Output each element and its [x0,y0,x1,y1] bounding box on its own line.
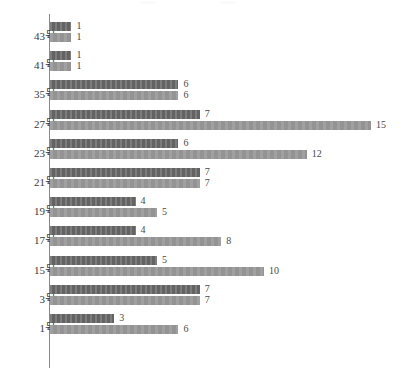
category-label: 17号 [0,234,56,246]
bar-row: 4 [50,197,406,206]
category-label: 1号 [0,322,56,334]
bar-value-label: 8 [226,235,231,247]
bar-row: 1 [50,33,406,42]
bar-group: 27号715 [0,110,406,130]
bar-value-label: 10 [269,265,279,277]
category-label: 23号 [0,147,56,159]
category-label: 15号 [0,264,56,276]
bar-series-0[interactable] [50,197,136,206]
bar-value-label: 5 [162,206,167,218]
bar-group: 19号45 [0,197,406,217]
bar-series-1[interactable] [50,325,178,334]
bar-row: 7 [50,110,406,119]
bar-group: 35号66 [0,80,406,100]
bar-chart: 43号1141号1135号6627号71523号61221号7719号4517号… [0,0,406,381]
bar-row: 4 [50,226,406,235]
bar-series-1[interactable] [50,150,307,159]
bar-group: 23号612 [0,139,406,159]
bar-group: 21号77 [0,168,406,188]
bar-series-0[interactable] [50,139,178,148]
bar-group: 43号11 [0,22,406,42]
bar-series-1[interactable] [50,62,71,71]
category-label: 3号 [0,293,56,305]
bar-series-0[interactable] [50,168,200,177]
bar-series-0[interactable] [50,80,178,89]
bar-row: 7 [50,296,406,305]
bar-group: 1号36 [0,314,406,334]
category-label: 43号 [0,30,56,42]
bar-group: 17号48 [0,226,406,246]
bar-row: 12 [50,150,406,159]
bar-row: 6 [50,80,406,89]
bar-series-1[interactable] [50,33,71,42]
bar-series-0[interactable] [50,285,200,294]
plot-area: 43号1141号1135号6627号71523号61221号7719号4517号… [0,0,406,381]
category-label: 21号 [0,176,56,188]
bar-row: 6 [50,91,406,100]
bar-series-1[interactable] [50,179,200,188]
bar-value-label: 7 [205,294,210,306]
bar-value-label: 1 [76,31,81,43]
bar-group: 3号77 [0,285,406,305]
bar-series-1[interactable] [50,208,157,217]
bar-value-label: 5 [162,254,167,266]
bar-row: 7 [50,179,406,188]
bar-value-label: 3 [119,312,124,324]
bar-value-label: 4 [141,195,146,207]
bar-series-1[interactable] [50,91,178,100]
bar-value-label: 7 [205,177,210,189]
bar-row: 1 [50,62,406,71]
bar-value-label: 15 [376,119,386,131]
bar-row: 1 [50,51,406,60]
bar-row: 15 [50,121,406,130]
bar-series-1[interactable] [50,121,371,130]
bar-value-label: 4 [141,224,146,236]
bar-series-0[interactable] [50,314,114,323]
bar-row: 1 [50,22,406,31]
bar-row: 6 [50,325,406,334]
bar-row: 7 [50,168,406,177]
bar-series-0[interactable] [50,22,71,31]
bar-value-label: 6 [183,137,188,149]
bar-series-1[interactable] [50,267,264,276]
bar-row: 8 [50,237,406,246]
bar-value-label: 6 [183,89,188,101]
bar-series-0[interactable] [50,110,200,119]
bar-value-label: 1 [76,60,81,72]
bar-row: 10 [50,267,406,276]
bar-series-0[interactable] [50,256,157,265]
bar-row: 5 [50,208,406,217]
bar-group: 15号510 [0,256,406,276]
bar-series-1[interactable] [50,296,200,305]
bar-value-label: 6 [183,323,188,335]
bar-group: 41号11 [0,51,406,71]
bar-series-1[interactable] [50,237,221,246]
bar-row: 5 [50,256,406,265]
category-label: 41号 [0,59,56,71]
bar-series-0[interactable] [50,226,136,235]
bar-row: 3 [50,314,406,323]
bar-series-0[interactable] [50,51,71,60]
bar-row: 6 [50,139,406,148]
bar-row: 7 [50,285,406,294]
category-label: 19号 [0,205,56,217]
category-label: 35号 [0,88,56,100]
bar-value-label: 12 [312,148,322,160]
category-label: 27号 [0,118,56,130]
bar-value-label: 7 [205,108,210,120]
